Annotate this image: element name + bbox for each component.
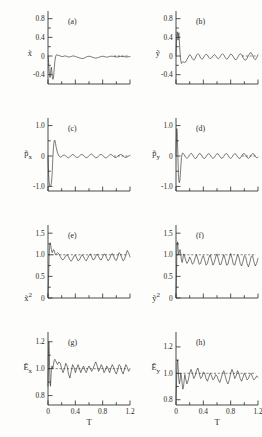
panel-tag: (e): [68, 231, 77, 240]
subplot-f: 1.51.00.50(f)ỹ2: [140, 220, 262, 324]
y-tick-label: 0: [41, 152, 45, 161]
subplot-a: 0.80.40-0.4(a)x̃: [12, 6, 134, 110]
figure-panel-grid: 0.80.40-0.4(a)x̃0.80.40-0.4(b)ỹ1.00-1.0…: [0, 0, 262, 437]
y-tick-label: 0.8: [36, 14, 46, 23]
panel-tag: (c): [68, 124, 77, 133]
x-tick-label: 0.4: [199, 407, 209, 416]
data-curve: [48, 243, 130, 297]
y-tick-label: -1.0: [33, 182, 45, 191]
y-tick-label: 0: [169, 152, 173, 161]
x-tick-label: 0: [174, 407, 178, 416]
data-curve: [176, 242, 258, 297]
subplot-d: 1.00-1.0(d)p̃y: [140, 113, 262, 217]
y-axis-label: ỹ2: [140, 291, 160, 303]
x-tick-label: 1.2: [253, 407, 262, 416]
y-tick-label: -0.4: [161, 70, 173, 79]
data-curve: [176, 360, 258, 400]
y-axis-label: x̃2: [12, 291, 32, 303]
y-tick-label: 1.0: [164, 369, 174, 378]
x-tick-label: 0.8: [98, 407, 108, 416]
y-axis-label: p̃y: [140, 149, 160, 161]
y-axis-label: ỹ: [140, 49, 160, 58]
y-axis-label: Ẽy: [140, 363, 160, 375]
x-axis-label: T: [176, 417, 258, 427]
x-axis-label: T: [48, 417, 130, 427]
y-axis-label: p̃x: [12, 149, 32, 161]
y-tick-label: 0.8: [36, 391, 46, 400]
y-tick-label: 1.0: [164, 121, 174, 130]
x-tick-label: 0: [46, 407, 50, 416]
y-tick-label: 0.4: [36, 33, 46, 42]
subplot-e: 1.51.00.50(e)x̃2: [12, 220, 134, 324]
panel-tag: (g): [68, 338, 77, 347]
x-tick-label: 0.8: [226, 407, 236, 416]
data-curve: [48, 342, 130, 386]
panel-tag: (f): [196, 231, 204, 240]
y-tick-label: -0.4: [33, 70, 45, 79]
y-tick-label: 0: [169, 52, 173, 61]
y-tick-label: 1.5: [36, 229, 46, 238]
data-curve: [176, 129, 258, 183]
y-axis-label: Ẽx: [12, 363, 32, 375]
y-tick-label: 1.0: [36, 364, 46, 373]
subplot-g: 1.21.00.800.40.81.2(g)ẼxT: [12, 327, 134, 431]
data-curve: [48, 140, 130, 186]
subplot-h: 1.21.00.800.40.81.2(h)ẼyT: [140, 327, 262, 431]
data-curve: [48, 55, 130, 80]
y-tick-label: 0.5: [164, 272, 174, 281]
y-tick-label: 0.4: [164, 33, 174, 42]
y-tick-label: 0: [41, 294, 45, 303]
y-tick-label: 1.2: [36, 337, 46, 346]
data-curve: [176, 32, 258, 64]
y-tick-label: 1.0: [164, 250, 174, 259]
x-tick-label: 0.4: [71, 407, 81, 416]
panel-tag: (h): [196, 338, 205, 347]
x-tick-label: 1.2: [125, 407, 135, 416]
panel-tag: (b): [196, 17, 205, 26]
panel-tag: (a): [68, 17, 77, 26]
y-tick-label: 1.0: [36, 121, 46, 130]
y-tick-label: 0: [169, 294, 173, 303]
y-tick-label: 0.8: [164, 14, 174, 23]
y-tick-label: 0.8: [164, 395, 174, 404]
y-tick-label: 0: [41, 52, 45, 61]
panel-tag: (d): [196, 124, 205, 133]
y-tick-label: 1.5: [164, 229, 174, 238]
y-axis-label: x̃: [12, 49, 32, 58]
subplot-b: 0.80.40-0.4(b)ỹ: [140, 6, 262, 110]
y-tick-label: 0.5: [36, 272, 46, 281]
y-tick-label: -1.0: [161, 182, 173, 191]
subplot-c: 1.00-1.0(c)p̃x: [12, 113, 134, 217]
y-tick-label: 1.2: [164, 342, 174, 351]
y-tick-label: 1.0: [36, 250, 46, 259]
